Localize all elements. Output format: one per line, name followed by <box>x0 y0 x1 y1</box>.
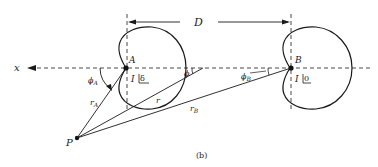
observer-label: P <box>65 137 73 148</box>
distance-label-rb: rB <box>190 104 199 114</box>
figure-caption: (b) <box>196 151 207 160</box>
element-b-label: B <box>294 55 302 65</box>
element-a-current-label: I <box>130 74 135 84</box>
distance-label-r: r <box>156 96 161 105</box>
dimension-arrow-right <box>282 20 290 25</box>
distance-line-ra <box>77 68 126 138</box>
angle-arc-phi <box>192 68 193 74</box>
angle-label-phi-b: ϕB <box>241 72 251 82</box>
element-b-current-label: I <box>294 74 299 84</box>
antenna-array-diagram: x D A B I δ I 0 P rA r rB ϕA ϕ ϕB (b) <box>0 0 378 167</box>
distance-label-ra: rA <box>90 98 99 108</box>
x-axis-arrowhead <box>27 65 36 71</box>
angle-label-phi-a: ϕA <box>88 76 98 86</box>
dimension-arrow-left <box>128 20 136 25</box>
element-a-label: A <box>128 55 136 65</box>
angle-label-phi: ϕ <box>184 69 190 78</box>
separation-label: D <box>193 16 203 29</box>
element-a-phase-label: δ <box>140 74 145 83</box>
angle-phi-b-leader <box>250 71 266 73</box>
angle-arc-phi-b <box>268 68 269 75</box>
element-b-phase-label: 0 <box>304 74 309 83</box>
x-axis-label: x <box>14 62 20 73</box>
